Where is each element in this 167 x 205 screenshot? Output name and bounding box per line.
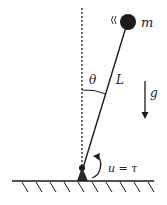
pivot-base	[77, 167, 88, 181]
angle-label: θ	[89, 73, 97, 87]
mass-label: m	[141, 15, 153, 30]
pendulum-diagram: m L θ g u = τ	[0, 0, 167, 205]
ground-hatching	[22, 182, 154, 192]
input-torque-label: u = τ	[108, 162, 138, 175]
torque-arrow	[92, 155, 101, 178]
pendulum-bob	[120, 14, 136, 30]
pendulum-rod	[83, 27, 126, 168]
angle-arc	[82, 90, 106, 94]
gravity-arrowhead-icon	[142, 112, 149, 119]
gravity-label: g	[150, 86, 158, 100]
torque-arrowhead-icon	[93, 153, 100, 160]
motion-marks-icon	[112, 16, 117, 24]
length-label: L	[115, 73, 124, 87]
